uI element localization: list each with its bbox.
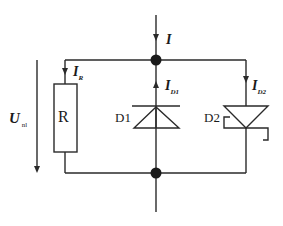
resistor-label: R bbox=[58, 109, 69, 125]
current-arrow-id2 bbox=[243, 76, 249, 83]
current-label-id2: ID2 bbox=[252, 79, 266, 93]
current-label-ir: IR bbox=[73, 65, 83, 79]
bottom-junction-node bbox=[151, 168, 162, 179]
diode-d2-label: D2 bbox=[204, 111, 220, 124]
circuit-diagram bbox=[0, 0, 283, 226]
current-arrow-ir bbox=[62, 68, 68, 75]
voltage-label-unl: Unl bbox=[9, 111, 27, 126]
current-label-i: I bbox=[166, 33, 171, 47]
diode-d1-label: D1 bbox=[115, 111, 131, 124]
voltage-arrow-unl bbox=[34, 60, 40, 173]
zener-diode-d2 bbox=[224, 60, 268, 173]
current-arrow-i bbox=[153, 34, 159, 41]
current-arrow-id1 bbox=[153, 81, 159, 88]
top-junction-node bbox=[151, 55, 162, 66]
current-label-id1: ID1 bbox=[165, 79, 179, 93]
